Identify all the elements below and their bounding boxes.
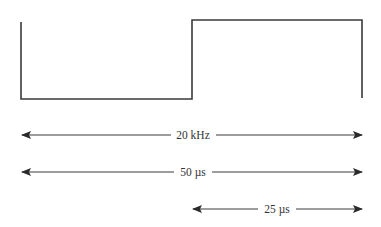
- period-label: 50 µs: [180, 166, 206, 179]
- frequency-dimension: 20 kHz: [22, 129, 362, 141]
- frequency-label: 20 kHz: [176, 129, 210, 141]
- half-period-dimension: 25 µs: [193, 203, 362, 216]
- square-waveform: [21, 20, 362, 99]
- square-wave-diagram: 20 kHz 50 µs 25 µs: [0, 0, 381, 227]
- half-period-label: 25 µs: [264, 203, 290, 216]
- period-dimension: 50 µs: [22, 166, 362, 179]
